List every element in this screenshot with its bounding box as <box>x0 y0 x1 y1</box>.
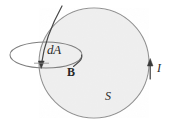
magnetic-field-label: B <box>67 66 75 78</box>
sphere-texture <box>40 9 149 118</box>
current-label: I <box>157 62 161 74</box>
surface-label: S <box>105 90 111 102</box>
figure-canvas <box>0 0 173 123</box>
area-element-label: dA <box>47 43 61 56</box>
physics-figure: dA B I S <box>0 0 173 123</box>
